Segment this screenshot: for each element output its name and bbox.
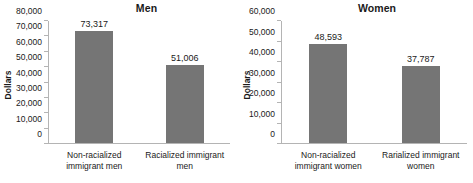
x-category-label: Racialized immigrant men <box>140 150 231 172</box>
bar-value-label: 51,006 <box>171 53 199 63</box>
x-axis-line-women <box>281 143 467 144</box>
x-category-label: Rarialized immigrant women <box>375 150 468 172</box>
y-tick-women-0 <box>277 143 281 144</box>
bar-group-men: 73,31751,006 <box>49 21 230 143</box>
y-tick-label-men-3: 30,000 <box>16 83 42 93</box>
chart-panel-men: Men Dollars 010,00020,00030,00040,00050,… <box>0 0 237 183</box>
y-tick-men-6 <box>44 51 48 52</box>
y-tick-men-4 <box>44 82 48 83</box>
bar-column: 51,006 <box>140 21 231 143</box>
y-axis-title-men: Dollars <box>3 65 13 105</box>
y-tick-men-0 <box>44 143 48 144</box>
y-tick-label-women-3: 30,000 <box>249 68 275 78</box>
bar <box>75 31 113 143</box>
y-tick-label-women-1: 10,000 <box>249 109 275 119</box>
y-tick-men-8 <box>44 20 48 21</box>
y-tick-label-women-2: 20,000 <box>249 88 275 98</box>
x-axis-line-men <box>48 143 230 144</box>
x-axis-labels-men: Non-racialized immigrant menRacialized i… <box>49 150 230 172</box>
y-tick-label-women-4: 40,000 <box>249 47 275 57</box>
y-tick-men-2 <box>44 112 48 113</box>
chart-panel-women: Women Dollars 010,00020,00030,00040,0005… <box>237 0 473 183</box>
y-tick-women-2 <box>277 102 281 103</box>
x-axis-labels-women: Non-racialized immigrant womenRarialized… <box>282 150 467 172</box>
y-tick-label-women-0: 0 <box>270 129 275 139</box>
bar <box>309 44 347 143</box>
y-tick-men-5 <box>44 66 48 67</box>
y-tick-label-men-7: 70,000 <box>16 21 42 31</box>
bar-group-women: 48,59337,787 <box>282 21 467 143</box>
y-tick-label-women-6: 60,000 <box>249 6 275 16</box>
y-tick-label-men-8: 80,000 <box>16 6 42 16</box>
y-tick-women-5 <box>277 41 281 42</box>
x-category-label: Non-racialized immigrant men <box>49 150 140 172</box>
y-tick-label-men-5: 50,000 <box>16 52 42 62</box>
y-tick-label-men-0: 0 <box>37 129 42 139</box>
y-tick-label-men-4: 40,000 <box>16 68 42 78</box>
plot-area-men: 010,00020,00030,00040,00050,00060,00070,… <box>48 21 230 144</box>
y-tick-women-3 <box>277 82 281 83</box>
y-tick-label-women-5: 50,000 <box>249 27 275 37</box>
y-tick-women-4 <box>277 61 281 62</box>
bar-column: 48,593 <box>282 21 375 143</box>
bar-column: 37,787 <box>375 21 468 143</box>
bar-value-label: 73,317 <box>80 19 108 29</box>
plot-area-women: 010,00020,00030,00040,00050,00060,000 48… <box>281 21 467 144</box>
bar-column: 73,317 <box>49 21 140 143</box>
y-tick-men-7 <box>44 35 48 36</box>
x-category-label: Non-racialized immigrant women <box>282 150 375 172</box>
y-tick-men-3 <box>44 97 48 98</box>
y-tick-label-men-6: 60,000 <box>16 37 42 47</box>
bar-value-label: 48,593 <box>314 32 342 42</box>
bar-chart-figure: Men Dollars 010,00020,00030,00040,00050,… <box>0 0 473 183</box>
y-tick-men-1 <box>44 128 48 129</box>
bar <box>166 65 204 143</box>
y-tick-label-men-1: 10,000 <box>16 114 42 124</box>
bar <box>402 66 440 143</box>
y-tick-label-men-2: 20,000 <box>16 98 42 108</box>
y-tick-women-6 <box>277 20 281 21</box>
y-tick-women-1 <box>277 123 281 124</box>
bar-value-label: 37,787 <box>407 54 435 64</box>
